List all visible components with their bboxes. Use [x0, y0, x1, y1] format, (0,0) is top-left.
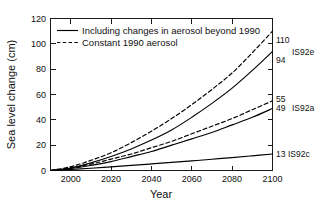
curve-is92e-dashed — [51, 31, 273, 170]
end-label-is92c-solid: 13 — [276, 149, 286, 159]
y-tick-label-80: 80 — [36, 64, 46, 74]
chart-legend: Including changes in aerosol beyond 1990… — [57, 25, 260, 48]
scenario-label-is92a: IS92a — [292, 103, 314, 113]
end-label-is92e-solid: 94 — [276, 55, 286, 65]
scenario-label-is92c: IS92c — [288, 149, 310, 159]
y-tick-label-40: 40 — [36, 115, 46, 125]
right-end-labels: 110 IS92e 94 55 IS92a 49 13 IS92c — [276, 35, 314, 159]
x-axis-tick-labels: 2000 2020 2040 2060 2080 2100 — [61, 174, 283, 184]
x-axis-title: Year — [150, 188, 173, 200]
y-axis-ticks-right — [268, 19, 273, 171]
y-tick-label-100: 100 — [31, 39, 46, 49]
legend-label-dashed: Constant 1990 aerosol — [82, 37, 178, 48]
curve-layer — [51, 31, 273, 170]
end-label-is92e-dashed: 110 — [276, 35, 290, 45]
y-axis-title: Sea level change (cm) — [5, 40, 17, 149]
x-tick-label-2100: 2100 — [262, 174, 282, 184]
end-label-is92a-solid: 49 — [276, 103, 286, 113]
legend-label-solid: Including changes in aerosol beyond 1990 — [82, 25, 260, 36]
y-tick-label-120: 120 — [31, 14, 46, 24]
chart-svg: 0 20 40 60 80 100 120 2000 — [0, 0, 329, 217]
y-axis-ticks — [51, 19, 56, 171]
x-tick-label-2000: 2000 — [61, 174, 81, 184]
curve-is92e-solid — [51, 51, 273, 170]
y-axis-tick-labels: 0 20 40 60 80 100 120 — [31, 14, 46, 176]
scenario-label-is92e: IS92e — [292, 47, 314, 57]
sea-level-chart: 0 20 40 60 80 100 120 2000 — [0, 0, 329, 217]
x-axis-ticks-top — [71, 19, 273, 24]
y-tick-label-20: 20 — [36, 140, 46, 150]
curve-is92a-solid — [51, 108, 273, 170]
y-tick-label-60: 60 — [36, 90, 46, 100]
x-tick-label-2040: 2040 — [141, 174, 161, 184]
x-tick-label-2060: 2060 — [182, 174, 202, 184]
x-tick-label-2080: 2080 — [222, 174, 242, 184]
y-tick-label-0: 0 — [41, 166, 46, 176]
x-tick-label-2020: 2020 — [101, 174, 121, 184]
